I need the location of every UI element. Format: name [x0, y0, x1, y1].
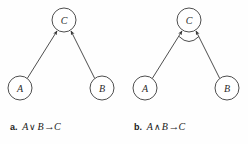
- node-b-right[interactable]: B: [215, 76, 239, 100]
- node-a-right-label: A: [141, 83, 149, 94]
- formula-a-left-operand: A: [22, 121, 29, 132]
- edge-a-to-c-right: [152, 31, 182, 78]
- node-c-right[interactable]: C: [177, 8, 201, 32]
- formula-a-result: C: [54, 121, 61, 132]
- panel-a-diagram: C A B: [8, 8, 114, 100]
- node-c-right-label: C: [186, 15, 193, 26]
- conjunction-arc-marker: [179, 37, 199, 42]
- formula-b-result: C: [178, 121, 185, 132]
- edge-b-to-c-left: [71, 31, 95, 78]
- formula-a-right-operand: B: [37, 121, 44, 132]
- node-b-right-right-label: B: [224, 83, 230, 94]
- edge-b-to-c-right: [196, 31, 220, 78]
- node-a-right[interactable]: A: [133, 76, 157, 100]
- caption-panel-b: b. A∧B→C: [134, 121, 186, 133]
- caption-panel-a: a. A∨B→C: [10, 121, 61, 133]
- caption-b-tag: b.: [134, 122, 142, 132]
- node-a-left-label: A: [16, 83, 24, 94]
- formula-b-arrow: →: [168, 120, 178, 132]
- caption-b-formula: A∧B→C: [147, 121, 186, 132]
- caption-a-tag: a.: [10, 122, 18, 132]
- node-c-left[interactable]: C: [52, 8, 76, 32]
- figure-canvas: C A B C: [0, 0, 248, 144]
- node-b-left-label: B: [99, 83, 105, 94]
- edge-a-to-c-left: [27, 31, 57, 78]
- formula-a-arrow: →: [44, 120, 54, 132]
- panel-b-diagram: C A B: [133, 8, 239, 100]
- node-b-left[interactable]: B: [90, 76, 114, 100]
- caption-a-formula: A∨B→C: [22, 121, 61, 132]
- node-a-left[interactable]: A: [8, 76, 32, 100]
- node-c-left-label: C: [61, 15, 68, 26]
- formula-b-operator: ∧: [153, 122, 162, 132]
